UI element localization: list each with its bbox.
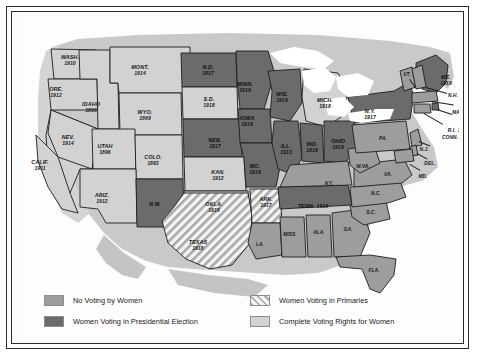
legend-label-complete-rights: Complete Voting Rights for Women (279, 317, 394, 326)
state-MA (412, 91, 438, 103)
map-legend: No Voting by Women Women Voting in Prima… (18, 292, 459, 336)
state-IN (300, 123, 324, 163)
state-MD (394, 149, 414, 163)
state-AZ (80, 169, 137, 223)
state-CT (414, 104, 431, 113)
state-UT (92, 129, 136, 169)
legend-swatch-presidential (44, 316, 64, 327)
state-ND (181, 53, 237, 87)
state-LA (248, 223, 282, 259)
suffrage-map: WASH.1910ORE.1912IDAHO1896MONT.1914WYO.1… (18, 17, 459, 338)
state-shapes-west (36, 47, 191, 227)
state-PA (352, 121, 410, 153)
legend-item-primaries: Women Voting in Primaries (250, 295, 368, 306)
state-NE (183, 119, 242, 157)
state-CO (135, 135, 183, 179)
legend-item-complete-rights: Complete Voting Rights for Women (250, 316, 394, 327)
state-IA (238, 109, 272, 143)
legend-label-primaries: Women Voting in Primaries (279, 296, 368, 305)
state-OR (48, 79, 98, 110)
state-MS (280, 217, 306, 257)
legend-item-presidential: Women Voting in Presidential Election (44, 316, 198, 327)
legend-swatch-primaries (250, 295, 270, 306)
state-KY (280, 161, 352, 187)
state-KS (184, 157, 246, 191)
state-SD (182, 87, 238, 119)
legend-swatch-complete-rights (250, 316, 270, 327)
state-FL (336, 255, 396, 293)
state-TN (278, 185, 352, 209)
state-AR (250, 189, 282, 223)
legend-label-no-voting: No Voting by Women (73, 296, 142, 305)
state-AL (306, 215, 332, 257)
state-MT (110, 47, 191, 93)
state-RI (432, 103, 439, 110)
legend-label-presidential: Women Voting in Presidential Election (73, 317, 198, 326)
legend-swatch-no-voting (44, 295, 64, 306)
us-states-map-svg (18, 17, 459, 307)
legend-item-no-voting: No Voting by Women (44, 295, 142, 306)
